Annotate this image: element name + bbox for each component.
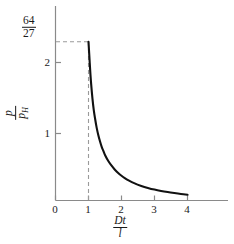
x-tick-label-3: 3 [151,204,157,215]
x-axis-label-numerator: Dt [113,215,127,227]
fraction-64-27: 64 27 [22,15,36,39]
x-axis-ticks [56,196,188,201]
x-tick-label-4: 4 [184,204,190,215]
y-axis-label: p pH [3,106,30,120]
y-tick-label-64-27: 64 27 [22,15,36,39]
fraction-denominator: 27 [22,27,36,40]
y-axis-label-fraction: p pH [3,106,30,120]
y-axis-label-denominator: pH [15,106,31,120]
chart-figure: 64 27 2 1 0 1 2 3 4 p pH Dt l [0,0,234,244]
data-curve [89,42,188,195]
y-axis-label-denominator-subscript: H [21,107,30,113]
y-tick-label-1: 1 [36,128,50,139]
x-axis-label-denominator: l [113,227,127,240]
y-axis-label-numerator: p [3,106,15,120]
y-axis-label-denominator-base: p [15,113,27,119]
x-tick-label-1: 1 [85,204,91,215]
fraction-numerator: 64 [22,15,36,27]
x-axis-label-fraction: Dt l [113,215,127,239]
y-tick-label-2: 2 [36,57,50,68]
y-axis-ticks [56,63,62,134]
x-axis-label: Dt l [113,215,127,239]
x-tick-label-0: 0 [52,204,58,215]
